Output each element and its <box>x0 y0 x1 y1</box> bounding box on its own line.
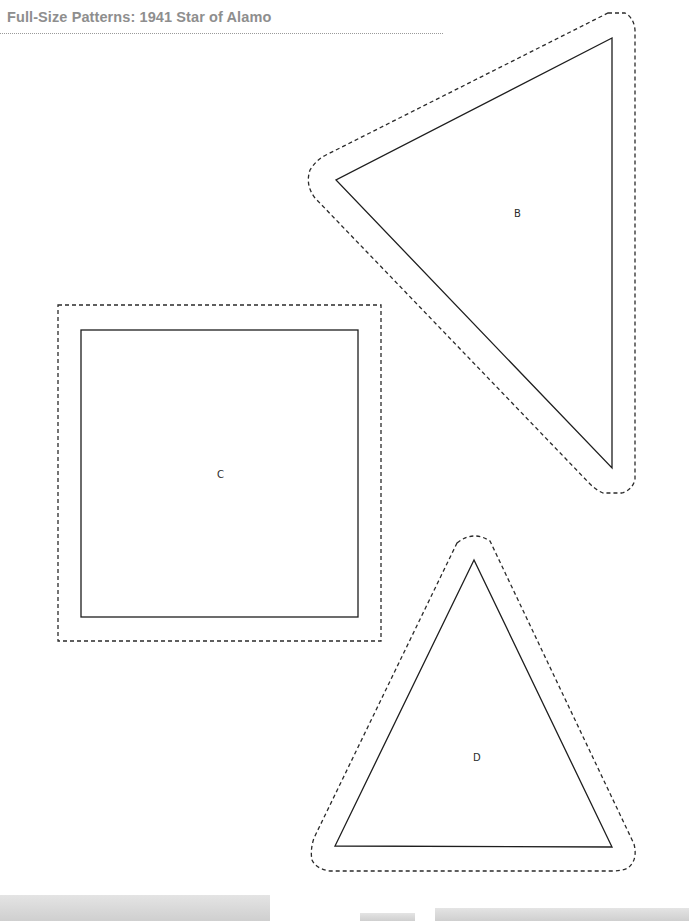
pattern-piece-b <box>308 13 635 493</box>
piece-c-label: C <box>217 469 224 480</box>
pattern-piece-d <box>311 536 635 871</box>
scan-edge-middle <box>360 913 415 921</box>
piece-b-label: B <box>514 208 521 219</box>
piece-b-outline <box>336 38 612 468</box>
scan-edge-right <box>435 908 689 921</box>
piece-d-label: D <box>473 752 481 763</box>
pattern-sheet <box>0 0 689 921</box>
scan-edge-left <box>0 895 270 921</box>
piece-d-outline <box>335 560 612 847</box>
piece-d-seam-allowance <box>311 536 635 871</box>
piece-b-seam-allowance <box>308 13 635 493</box>
